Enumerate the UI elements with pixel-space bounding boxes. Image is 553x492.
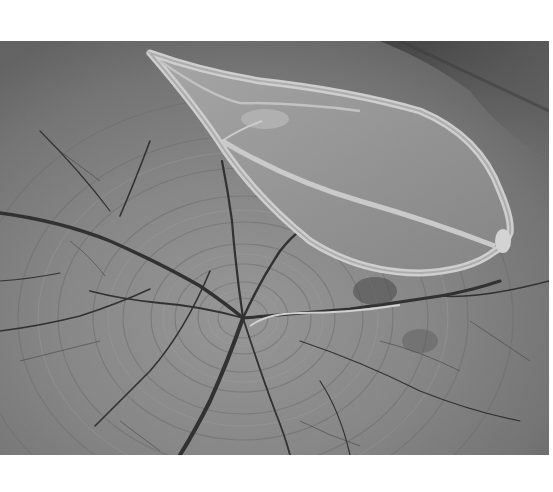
stump-photo: [0, 41, 549, 455]
image-canvas: [0, 0, 553, 492]
photo-scene: [0, 41, 549, 455]
